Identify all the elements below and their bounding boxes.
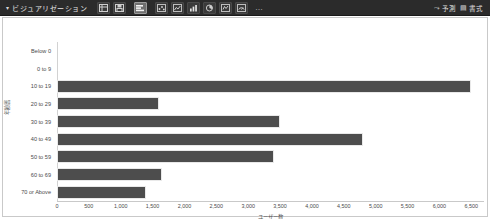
- bar-row: [57, 42, 484, 60]
- table-view-button[interactable]: [97, 2, 110, 14]
- format-label: 書式: [469, 3, 483, 13]
- bar-row: [57, 183, 484, 201]
- gauge-chart-button[interactable]: [235, 2, 248, 14]
- bar[interactable]: [57, 80, 471, 93]
- table-icon: [99, 4, 108, 12]
- x-axis-tick-label: 3,500: [273, 203, 287, 209]
- scatter-chart-button[interactable]: [155, 2, 168, 14]
- y-axis-tick-label: 0 to 9: [8, 60, 54, 78]
- bar-row: [57, 113, 484, 131]
- collapse-caret-icon[interactable]: ▾: [6, 5, 9, 11]
- format-button[interactable]: ▤ 書式: [460, 3, 483, 13]
- y-axis-tick-label: 30 to 39: [8, 113, 54, 131]
- bar-row: [57, 60, 484, 78]
- plot-area: [57, 42, 484, 201]
- bar-chart-icon: [136, 4, 145, 12]
- save-icon: [115, 4, 124, 12]
- x-axis-tick-label: 1,000: [114, 203, 128, 209]
- y-axis-tick-label: 60 to 69: [8, 166, 54, 184]
- y-axis-tick-label: 40 to 49: [8, 130, 54, 148]
- chart-container: 年齢層 Below 00 to 910 to 1920 to 2930 to 3…: [0, 16, 490, 219]
- bar-row: [57, 95, 484, 113]
- bar-row: [57, 77, 484, 95]
- bar-row: [57, 130, 484, 148]
- toolbar: ▾ ビジュアリゼーション: [0, 0, 490, 16]
- y-axis-tick-label: 50 to 59: [8, 148, 54, 166]
- y-axis-tick-labels: Below 00 to 910 to 1920 to 2930 to 3940 …: [8, 42, 54, 201]
- x-axis-tick-label: 2,500: [210, 203, 224, 209]
- line-chart-icon: [173, 4, 182, 12]
- gauge-icon: [237, 4, 246, 12]
- y-axis-tick-label: Below 0: [8, 42, 54, 60]
- forecast-label: 予測: [442, 3, 456, 13]
- visualization-panel: ▾ ビジュアリゼーション: [0, 0, 490, 219]
- bar-rows: [57, 42, 484, 201]
- column-chart-button[interactable]: [187, 2, 200, 14]
- x-axis-tick-label: 4,500: [337, 203, 351, 209]
- x-axis-tick-label: 5,500: [401, 203, 415, 209]
- bar[interactable]: [57, 186, 146, 199]
- x-axis-tick-label: 3,000: [241, 203, 255, 209]
- y-axis-tick-label: 20 to 29: [8, 95, 54, 113]
- x-axis-tick-labels: 05001,0001,5002,0002,5003,0003,5004,0004…: [57, 203, 484, 212]
- toolbar-button-group: …: [97, 2, 264, 14]
- bar-row: [57, 166, 484, 184]
- bar[interactable]: [57, 115, 280, 128]
- line-chart-button[interactable]: [171, 2, 184, 14]
- panel-title: ビジュアリゼーション: [12, 3, 87, 13]
- x-axis-tick-label: 4,000: [305, 203, 319, 209]
- x-axis-tick-label: 6,000: [433, 203, 447, 209]
- x-axis-title: ユーザー数: [57, 213, 484, 219]
- bar[interactable]: [57, 133, 363, 146]
- forecast-button[interactable]: ⤳ 予測: [434, 3, 456, 13]
- map-chart-button[interactable]: [219, 2, 232, 14]
- forecast-icon: ⤳: [434, 4, 440, 11]
- toolbar-right-group: ⤳ 予測 ▤ 書式: [434, 3, 483, 13]
- pie-chart-icon: [205, 4, 214, 12]
- bar-chart-button[interactable]: [134, 2, 147, 14]
- x-axis-tick-label: 500: [84, 203, 93, 209]
- pie-chart-button[interactable]: [203, 2, 216, 14]
- x-axis-tick-label: 6,500: [465, 203, 479, 209]
- x-axis-tick-label: 0: [56, 203, 59, 209]
- scatter-icon: [157, 4, 166, 12]
- y-axis-tick-label: 70 or Above: [8, 183, 54, 201]
- bar[interactable]: [57, 150, 274, 163]
- toolbar-overflow-button[interactable]: …: [255, 4, 264, 12]
- x-axis-tick-label: 2,000: [178, 203, 192, 209]
- save-button[interactable]: [113, 2, 126, 14]
- y-axis-tick-label: 10 to 19: [8, 77, 54, 95]
- column-chart-icon: [189, 4, 198, 12]
- bar[interactable]: [57, 168, 162, 181]
- format-icon: ▤: [460, 4, 467, 11]
- x-axis-tick-label: 5,000: [369, 203, 383, 209]
- map-icon: [221, 4, 230, 12]
- bar-row: [57, 148, 484, 166]
- x-axis-line: [57, 201, 484, 202]
- x-axis-tick-label: 1,500: [146, 203, 160, 209]
- bar[interactable]: [57, 97, 159, 110]
